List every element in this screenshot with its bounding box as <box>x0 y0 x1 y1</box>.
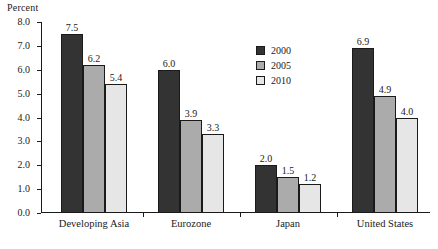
y-axis-tick-label: 6.0 <box>18 65 31 75</box>
y-axis-tick: 6.0 <box>37 70 41 71</box>
bar: 7.5 <box>61 34 83 213</box>
legend-label: 2005 <box>271 60 291 71</box>
x-axis-tick <box>337 213 338 217</box>
x-axis-category-label: United States <box>357 218 413 230</box>
bar-value-label: 6.9 <box>357 36 370 47</box>
x-axis-tick <box>143 213 144 217</box>
bar-value-label: 4.0 <box>401 106 414 117</box>
bar: 1.2 <box>299 184 321 213</box>
y-axis-line <box>41 22 42 213</box>
y-axis-tick: 4.0 <box>37 118 41 119</box>
bar: 2.0 <box>255 165 277 213</box>
y-axis-tick-label: 4.0 <box>18 113 31 123</box>
bar-value-label: 3.9 <box>185 108 198 119</box>
y-axis-tick-label: 3.0 <box>18 136 31 146</box>
legend-item: 2000 <box>256 44 291 57</box>
bar-value-label: 6.0 <box>163 58 176 69</box>
legend-item: 2005 <box>256 59 291 72</box>
bar: 6.9 <box>352 48 374 213</box>
legend-swatch <box>256 61 265 70</box>
bar-value-label: 1.2 <box>304 172 317 183</box>
y-axis-tick: 8.0 <box>37 22 41 23</box>
y-axis-tick-label: 8.0 <box>18 17 31 27</box>
bar-value-label: 6.2 <box>88 53 101 64</box>
bar-value-label: 2.0 <box>260 153 273 164</box>
legend-swatch <box>256 46 265 55</box>
bar: 4.0 <box>396 118 418 214</box>
bar: 3.9 <box>180 120 202 213</box>
y-axis-title: Percent <box>7 2 38 14</box>
legend-label: 2010 <box>271 75 291 86</box>
bar: 6.2 <box>83 65 105 213</box>
plot-area: 0.01.02.03.04.05.06.07.08.0 7.56.25.46.0… <box>41 22 430 213</box>
y-axis-tick-label: 2.0 <box>18 160 31 170</box>
bar: 5.4 <box>105 84 127 213</box>
bar-value-label: 1.5 <box>282 165 295 176</box>
legend-swatch <box>256 76 265 85</box>
legend: 200020052010 <box>256 44 291 89</box>
bar-value-label: 4.9 <box>379 84 392 95</box>
x-axis-tick <box>240 213 241 217</box>
x-axis-category-label: Japan <box>276 218 300 230</box>
bar-value-label: 7.5 <box>66 22 79 33</box>
x-axis-category-label: Developing Asia <box>59 218 129 230</box>
bar: 6.0 <box>158 70 180 213</box>
legend-item: 2010 <box>256 74 291 87</box>
y-axis-tick: 3.0 <box>37 141 41 142</box>
bar: 3.3 <box>202 134 224 213</box>
y-axis-tick: 0.0 <box>37 213 41 214</box>
legend-label: 2000 <box>271 45 291 56</box>
y-axis-tick-label: 1.0 <box>18 184 31 194</box>
y-axis-tick: 5.0 <box>37 94 41 95</box>
bar-value-label: 3.3 <box>207 122 220 133</box>
bar-value-label: 5.4 <box>110 72 123 83</box>
y-axis-tick: 7.0 <box>37 46 41 47</box>
y-axis-tick-label: 0.0 <box>18 208 31 218</box>
y-axis-tick: 1.0 <box>37 189 41 190</box>
y-axis-tick: 2.0 <box>37 165 41 166</box>
bar: 4.9 <box>374 96 396 213</box>
y-axis-tick-label: 7.0 <box>18 41 31 51</box>
y-axis-tick-label: 5.0 <box>18 89 31 99</box>
x-axis-category-label: Eurozone <box>171 218 211 230</box>
bar: 1.5 <box>277 177 299 213</box>
bar-chart: Percent 0.01.02.03.04.05.06.07.08.0 7.56… <box>0 0 438 249</box>
